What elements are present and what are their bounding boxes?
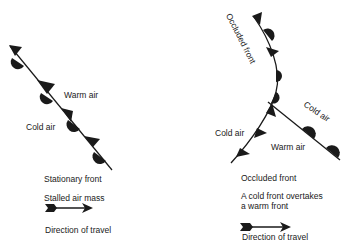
- occluded-front-symbol: [231, 12, 340, 163]
- occluded-arrow-caption: Direction of travel: [242, 233, 308, 242]
- occluded-front-description-2: a warm front: [241, 202, 288, 211]
- occluded-front-title: Occluded front: [241, 174, 296, 183]
- stationary-arrow-caption: Direction of travel: [45, 226, 111, 235]
- stationary-front-title: Stationary front: [44, 175, 102, 184]
- warm-air-label: Warm air: [64, 91, 98, 100]
- stationary-front-symbol: [9, 45, 112, 170]
- direction-arrow-stationary: [45, 203, 93, 213]
- occluded-front-description-1: A cold front overtakes: [241, 192, 323, 201]
- direction-arrow-occluded: [240, 222, 291, 232]
- cold-air-left-label: Cold air: [215, 129, 244, 138]
- cold-air-label: Cold air: [26, 123, 55, 132]
- stationary-front-description: Stalled air mass: [44, 194, 104, 203]
- warm-air-label-occluded: Warm air: [271, 143, 305, 152]
